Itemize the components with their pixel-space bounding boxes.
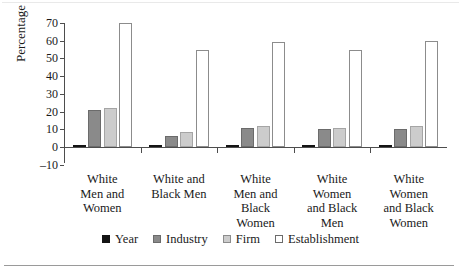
plot-area: 706050403020100–10	[64, 18, 447, 168]
x-axis-category-label-1: WhiteMen andWomen	[58, 172, 147, 216]
bar-year-group-1	[73, 145, 86, 147]
category-label-line: White	[211, 172, 300, 187]
y-axis-tick-label: 60	[46, 35, 58, 47]
x-axis-category-label-2: White andBlack Men	[135, 172, 224, 201]
bar-firm-group-3	[257, 126, 270, 147]
category-label-line: Men	[288, 216, 377, 231]
category-label-line: Women	[364, 216, 453, 231]
y-axis-title: Percentage	[14, 5, 27, 62]
bottom-divider	[4, 265, 454, 266]
bar-industry-group-1	[88, 110, 101, 147]
bar-year-group-2	[149, 145, 162, 147]
x-axis-category-label-3: WhiteMen andBlackWomen	[211, 172, 300, 230]
bar-firm-group-4	[333, 128, 346, 147]
category-label-line: Black Men	[135, 187, 224, 202]
bar-firm-group-1	[104, 108, 117, 147]
category-label-line: White	[288, 172, 377, 187]
y-axis-tick-label: 40	[46, 70, 58, 82]
top-divider	[2, 2, 459, 3]
bar-establishment-group-5	[425, 41, 438, 147]
y-axis-tick-mark	[60, 147, 64, 148]
category-label-line: Women	[288, 187, 377, 202]
category-label-line: Men and	[211, 187, 300, 202]
y-axis-tick-mark	[60, 41, 64, 42]
bar-establishment-group-1	[119, 23, 132, 147]
bar-year-group-5	[379, 145, 392, 147]
y-axis-tick-mark	[60, 94, 64, 95]
y-axis-tick-label: 30	[46, 88, 58, 100]
y-axis-tick-label: 70	[46, 17, 58, 29]
y-axis-tick-label: 20	[46, 106, 58, 118]
x-axis-tick-mark	[217, 148, 218, 153]
category-label-line: Black	[211, 201, 300, 216]
legend-swatch-year-icon	[102, 235, 110, 243]
legend-label-year: Year	[115, 232, 138, 246]
y-axis-tick-label: 0	[52, 141, 58, 153]
y-axis-tick-mark	[60, 129, 64, 130]
category-label-line: and Black	[364, 201, 453, 216]
y-axis-tick-mark	[60, 165, 64, 166]
legend-label-firm: Firm	[236, 232, 260, 246]
legend-label-establishment: Establishment	[288, 232, 359, 246]
x-axis-category-label-4: WhiteWomenand BlackMen	[288, 172, 377, 230]
x-axis-line	[64, 147, 447, 148]
bar-establishment-group-2	[196, 50, 209, 147]
y-axis-tick-mark	[60, 23, 64, 24]
y-axis-tick-mark	[60, 58, 64, 59]
y-axis-title-container: Percentage	[18, 18, 32, 148]
bar-industry-group-3	[241, 128, 254, 147]
legend-item-year[interactable]: Year	[102, 232, 138, 246]
x-axis-tick-mark	[294, 148, 295, 153]
category-label-line: Women	[364, 187, 453, 202]
x-axis-category-label-5: WhiteWomenand BlackWomen	[364, 172, 453, 230]
bar-firm-group-5	[410, 126, 423, 147]
category-label-line: White	[364, 172, 453, 187]
category-label-line: Women	[211, 216, 300, 231]
bar-year-group-4	[302, 145, 315, 147]
bar-industry-group-2	[165, 136, 178, 147]
y-axis-line	[64, 23, 65, 163]
category-label-line: Women	[58, 201, 147, 216]
legend-item-establishment[interactable]: Establishment	[275, 232, 359, 246]
chart-legend: YearIndustryFirmEstablishment	[0, 232, 461, 246]
bar-firm-group-2	[180, 132, 193, 147]
x-axis-tick-mark	[141, 148, 142, 153]
bar-year-group-3	[226, 145, 239, 147]
bar-establishment-group-3	[272, 42, 285, 147]
legend-swatch-industry-icon	[153, 235, 161, 243]
category-label-line: White and	[135, 172, 224, 187]
y-axis-tick-mark	[60, 112, 64, 113]
y-axis-tick-label: 10	[46, 123, 58, 135]
legend-swatch-firm-icon	[223, 235, 231, 243]
legend-item-firm[interactable]: Firm	[223, 232, 260, 246]
bar-industry-group-4	[318, 129, 331, 147]
x-axis-tick-mark	[370, 148, 371, 153]
figure-container: Percentage 706050403020100–10 WhiteMen a…	[0, 0, 461, 275]
legend-label-industry: Industry	[166, 232, 208, 246]
category-label-line: Men and	[58, 187, 147, 202]
category-label-line: and Black	[288, 201, 377, 216]
y-axis-tick-mark	[60, 76, 64, 77]
bar-establishment-group-4	[349, 50, 362, 147]
legend-swatch-establishment-icon	[275, 235, 283, 243]
category-label-line: White	[58, 172, 147, 187]
y-axis-tick-label: –10	[40, 159, 58, 171]
bar-industry-group-5	[394, 129, 407, 147]
y-axis-tick-label: 50	[46, 52, 58, 64]
legend-item-industry[interactable]: Industry	[153, 232, 208, 246]
